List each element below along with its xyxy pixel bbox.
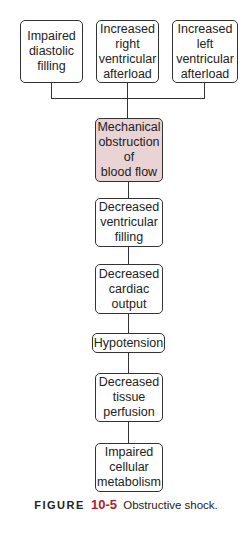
connector: [128, 353, 129, 373]
impaired-cellular-metabolism-box: Impaired cellular metabolism: [95, 443, 163, 492]
connector: [128, 182, 129, 198]
mechanical-obstruction-box: Mechanical obstruction of blood flow: [95, 118, 163, 182]
caption-prefix: FIGURE: [34, 499, 85, 511]
decreased-cardiac-output-box: Decreased cardiac output: [95, 264, 163, 314]
hypotension-box: Hypotension: [92, 333, 165, 353]
connector: [128, 422, 129, 443]
connector: [204, 83, 205, 99]
connector: [51, 98, 205, 99]
cause-impaired-diastolic-filling: Impaired diastolic filling: [20, 20, 83, 83]
decreased-tissue-perfusion-box: Decreased tissue perfusion: [95, 373, 163, 422]
caption-text: Obstructive shock.: [123, 499, 218, 511]
connector: [128, 247, 129, 264]
cause-increased-right-ventricular-afterload: Increased right ventricular afterload: [96, 20, 159, 83]
decreased-ventricular-filling-box: Decreased ventricular filling: [95, 198, 163, 247]
caption-number: 10-5: [91, 497, 117, 512]
cause-increased-left-ventricular-afterload: Increased left ventricular afterload: [172, 20, 238, 83]
connector: [51, 83, 52, 99]
figure-caption: FIGURE 10-5 Obstructive shock.: [0, 497, 252, 512]
connector: [128, 314, 129, 333]
connector: [127, 83, 128, 118]
